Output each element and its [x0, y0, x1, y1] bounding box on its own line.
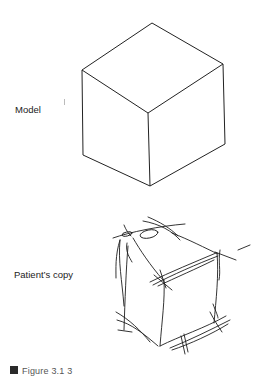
model-cube: [82, 23, 225, 186]
patient-sketch: [113, 217, 250, 354]
patient-copy-label: Patient’s copy: [14, 269, 73, 281]
caption-marker-icon: [10, 366, 18, 374]
figure-caption: Figure 3.1 3: [10, 366, 72, 378]
caption-text: Figure 3.1 3: [22, 366, 72, 376]
